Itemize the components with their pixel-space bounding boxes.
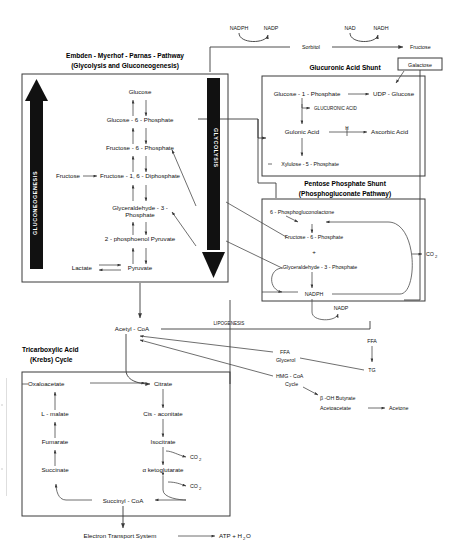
- metabolite-fructose-entry: Fructose: [56, 172, 81, 179]
- embden-title-line2: (Glycolysis and Gluconeogenesis): [71, 62, 179, 70]
- metabolite-fumarate: Fumarate: [42, 438, 69, 445]
- label-plus-sign: +: [312, 248, 316, 255]
- metabolite-glucuronic-acid: GLUCURONIC ACID: [314, 106, 358, 111]
- krebs-title-line1: Tricarboxylic Acid: [22, 346, 79, 354]
- metabolite-fructose-1-6-diphosphate: Fructose - 1, 6 - Diphosphate: [100, 172, 181, 179]
- label-nadp-lipogenesis: NADP: [334, 305, 349, 311]
- label-nadph-top: NADPH: [230, 25, 249, 31]
- metabolite-ascorbic-acid: Ascorbic Acid: [371, 128, 409, 135]
- metabolite-oxaloacetate: Oxaloacetate: [28, 380, 65, 387]
- label-nad-top: NAD: [344, 25, 355, 31]
- embden-title-line1: Embden - Myerhof - Parnas - Pathway: [66, 52, 184, 60]
- metabolite-cis-aconitate: Cis - aconitate: [143, 410, 183, 417]
- metabolite-alpha-ketoglutarate: α ketoglutarate: [142, 466, 184, 473]
- gluconeogenesis-arrow-label: GLUCONEOGENESIS: [32, 171, 38, 235]
- metabolite-beta-oh-butyrate: β -OH Butyrate: [320, 395, 355, 401]
- metabolite-glucose: Glucose: [129, 88, 152, 95]
- metabolite-lactate: Lactate: [72, 264, 93, 271]
- metabolite-pentose-g3p: Glyceraldehyde - 3 - Phosphate: [283, 264, 358, 270]
- metabolite-acetyl-coa: Acetyl - CoA: [115, 325, 150, 332]
- label-galactose: Galactose: [408, 62, 432, 68]
- glycolysis-arrow-label: GLYCOLYSIS: [213, 128, 219, 168]
- label-water-o: O: [246, 532, 251, 539]
- label-lipogenesis: LIPOGENESIS: [214, 321, 245, 326]
- metabolite-acetone: Acetone: [389, 405, 408, 411]
- metabolite-co2-krebs-b: CO: [190, 483, 198, 489]
- metabolite-gulonic-acid: Gulonic Acid: [285, 128, 320, 135]
- metabolite-nadph-pentose: NADPH: [305, 291, 324, 297]
- label-hmg-coa-line1: HMG - CoA: [276, 373, 304, 379]
- label-nadh-top: NADH: [373, 25, 388, 31]
- glucuronic-title: Glucuronic Acid Shunt: [309, 64, 381, 71]
- metabolite-citrate: Citrate: [154, 380, 173, 387]
- metabolite-glyceraldehyde-3-phosphate-line2: Phosphate: [125, 211, 155, 218]
- label-glycerol: Glycerol: [276, 357, 295, 363]
- pentose-title-line2: (Phosphogluconate Pathway): [299, 190, 391, 198]
- metabolite-succinyl-coa: Succinyl - CoA: [103, 497, 144, 504]
- metabolite-fructose-6-phosphate: Fructose - 6 - Phosphate: [106, 144, 175, 151]
- metabolite-isocitrate: Isocitrate: [150, 438, 176, 445]
- metabolite-glucose-6-phosphate: Glucose - 6 - Phosphate: [107, 116, 174, 123]
- metabolite-2-phosphoenol-pyruvate: 2 - phosphoenol Pyruvate: [105, 235, 176, 242]
- metabolite-acetoacetate: Acetoacetate: [320, 405, 351, 411]
- label-nadp-top: NADP: [264, 25, 279, 31]
- metabolite-pentose-f6p: Fructose - 6 - Phosphate: [285, 234, 343, 240]
- metabolite-co2-pentose: CO: [426, 251, 434, 257]
- pentose-title-line1: Pentose Phosphate Shunt: [304, 180, 387, 188]
- label-ffa-left: FFA: [280, 349, 290, 355]
- label-sorbitol: Sorbitol: [302, 44, 320, 50]
- metabolite-glyceraldehyde-3-phosphate-line1: Glyceraldehyde - 3 -: [112, 204, 168, 211]
- label-fructose-top: Fructose: [410, 44, 431, 50]
- label-electron-transport-system: Electron Transport System: [84, 532, 157, 539]
- label-atp-water: ATP + H: [219, 532, 242, 539]
- label-blocked-marker-h: H: [345, 126, 348, 131]
- label-ffa-right: FFA: [367, 338, 377, 344]
- metabolite-co2-krebs-a: CO: [190, 454, 198, 460]
- metabolite-glucose-1-phosphate: Glucose - 1 - Phosphate: [274, 90, 341, 97]
- metabolite-xylulose-5-phosphate: Xylulose - 5 - Phosphate: [281, 161, 339, 167]
- label-hmg-coa-line2: Cycle: [285, 381, 298, 387]
- krebs-title-line2: (Krebs) Cycle: [30, 356, 73, 364]
- label-tg: TG: [368, 367, 375, 373]
- canvas-background: [0, 0, 449, 560]
- metabolite-6-phosphogluconolactone: 6 - Phosphogluconolactone: [270, 209, 334, 215]
- metabolic-pathway-diagram: NADPH NADP NAD NADH Sorbitol Fructose Em…: [0, 0, 449, 560]
- metabolite-succinate: Succinate: [41, 466, 69, 473]
- metabolite-udp-glucose: UDP - Glucose: [373, 90, 415, 97]
- metabolite-l-malate: L - malate: [41, 410, 69, 417]
- metabolite-pyruvate: Pyruvate: [128, 264, 153, 271]
